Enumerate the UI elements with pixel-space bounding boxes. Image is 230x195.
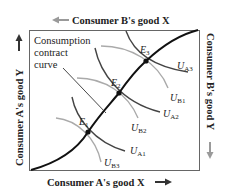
left-axis-label: Consumer A's good Y bbox=[14, 68, 25, 166]
annotation-line-2: contract bbox=[34, 47, 68, 58]
right-axis-label: Consumer B's good Y bbox=[205, 33, 216, 131]
annotation-line-1: Consumption bbox=[34, 35, 91, 46]
right-arrowhead-icon bbox=[165, 179, 172, 186]
label-ub1: UB1 bbox=[170, 92, 186, 105]
label-ub2: UB2 bbox=[131, 122, 147, 135]
bottom-axis-label: Consumer A's good X bbox=[47, 177, 145, 188]
edgeworth-box-diagram: Consumer B's good X Consumer A's good X … bbox=[0, 0, 230, 195]
label-ub3: UB3 bbox=[104, 157, 120, 170]
bottom-axis-label-group: Consumer A's good X bbox=[47, 177, 172, 188]
label-ua1: UA1 bbox=[130, 145, 146, 158]
annotation-leader-line bbox=[63, 68, 106, 113]
down-arrowhead-icon bbox=[207, 152, 214, 159]
point-e1 bbox=[85, 129, 90, 134]
right-axis-label-group: Consumer B's good Y bbox=[205, 33, 216, 159]
left-arrowhead-icon bbox=[52, 17, 59, 24]
up-arrowhead-icon bbox=[16, 34, 23, 41]
top-axis-label-group: Consumer B's good X bbox=[52, 15, 170, 26]
label-ua2: UA2 bbox=[163, 108, 179, 121]
point-e2 bbox=[116, 90, 121, 95]
label-e3: E3 bbox=[139, 44, 150, 57]
annotation-line-3: curve bbox=[34, 59, 58, 70]
point-e3 bbox=[143, 58, 148, 63]
left-axis-label-group: Consumer A's good Y bbox=[14, 34, 25, 166]
top-axis-label: Consumer B's good X bbox=[72, 15, 170, 26]
